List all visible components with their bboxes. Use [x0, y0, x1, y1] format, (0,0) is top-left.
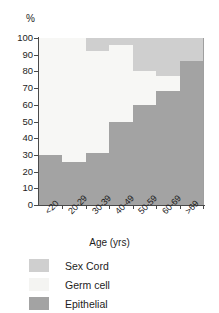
x-axis-tick [203, 205, 204, 209]
x-axis-tick [86, 205, 87, 209]
y-axis-tick-label: 60 [22, 100, 33, 110]
bar-segment-sex-cord [180, 38, 203, 61]
y-axis-tick [34, 122, 39, 123]
y-axis-tick [34, 205, 39, 206]
y-axis-tick-label: 40 [22, 133, 33, 143]
bar-segment-sex-cord [109, 38, 132, 45]
y-axis-tick-label: 90 [22, 50, 33, 60]
y-axis-tick [34, 88, 39, 89]
y-axis-tick-label: 10 [22, 183, 33, 193]
stacked-bar-chart-figure: % 0102030405060708090100 Age (yrs) Sex C… [0, 0, 219, 313]
bar-segment-sex-cord [86, 38, 109, 51]
bar-segment-epithelial [180, 61, 203, 205]
bar-segment-sex-cord [156, 38, 179, 76]
y-axis-tick [34, 38, 39, 39]
y-axis-tick [34, 71, 39, 72]
legend-item-sex-cord: Sex Cord [29, 256, 209, 275]
legend-label-epithelial: Epithelial [65, 298, 108, 310]
bar-69[interactable] [180, 38, 203, 205]
bar-30-39[interactable] [86, 38, 109, 205]
legend-label-sex-cord: Sex Cord [65, 260, 109, 272]
y-axis-tick-label: 0 [28, 200, 33, 210]
bar-20[interactable] [39, 38, 62, 205]
y-axis-tick [34, 55, 39, 56]
bar-segment-epithelial [39, 155, 62, 205]
bar-segment-epithelial [133, 105, 156, 205]
legend-label-germ-cell: Germ cell [65, 279, 110, 291]
legend-item-germ-cell: Germ cell [29, 275, 209, 294]
x-axis-tick [62, 205, 63, 209]
y-axis-tick-label: 80 [22, 66, 33, 76]
y-axis-tick-label: 50 [22, 117, 33, 127]
plot-area [39, 38, 203, 205]
y-axis-tick [34, 105, 39, 106]
bar-segment-germ-cell [156, 76, 179, 91]
x-axis-tick [133, 205, 134, 209]
bar-segment-epithelial [156, 91, 179, 205]
bar-segment-sex-cord [133, 38, 156, 71]
legend-swatch-germ-cell [29, 278, 49, 291]
x-axis-tick [156, 205, 157, 209]
y-axis-tick [34, 155, 39, 156]
bar-segment-germ-cell [62, 38, 85, 162]
chart-legend: Sex Cord Germ cell Epithelial [29, 256, 209, 313]
bar-segment-germ-cell [109, 45, 132, 122]
bar-segment-germ-cell [86, 51, 109, 153]
bar-segment-germ-cell [39, 38, 62, 155]
bar-segment-germ-cell [133, 71, 156, 104]
y-axis-tick [34, 188, 39, 189]
y-axis-tick [34, 138, 39, 139]
legend-swatch-sex-cord [29, 259, 49, 272]
bar-40-49[interactable] [109, 38, 132, 205]
legend-swatch-epithelial [29, 297, 49, 310]
x-axis-tick [109, 205, 110, 209]
bar-20-29[interactable] [62, 38, 85, 205]
y-axis-tick-label: 20 [22, 167, 33, 177]
y-axis-tick-label: 30 [22, 150, 33, 160]
x-axis-title: Age (yrs) [0, 237, 219, 249]
bar-60-69[interactable] [156, 38, 179, 205]
legend-item-epithelial: Epithelial [29, 294, 209, 313]
x-axis-tick [180, 205, 181, 209]
y-axis-tick [34, 172, 39, 173]
y-axis-tick-label: 70 [22, 83, 33, 93]
bar-separator [203, 38, 204, 205]
y-axis-tick-label: 100 [17, 33, 33, 43]
bar-50-59[interactable] [133, 38, 156, 205]
